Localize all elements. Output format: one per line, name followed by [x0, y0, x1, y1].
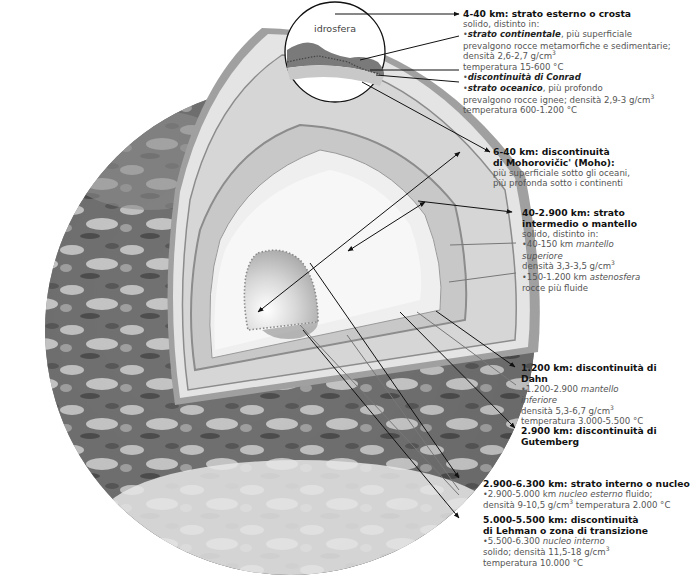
conrad-discontinuity: discontinuità di Conrad: [463, 72, 671, 83]
hydrosphere-label: idrosfera: [314, 23, 356, 34]
outer-core: 2.900-5.000 km nucleo esterno fluido;: [483, 489, 690, 500]
oceanic-layer: strato oceanico, più profondo: [463, 83, 671, 94]
core-label: 2.900-6.300 km: strato interno o nucleo …: [483, 478, 690, 511]
lower-mantle: 1.200-2.900 mantello: [521, 384, 657, 395]
gutenberg-label: 2.900 km: discontinuità di Gutemberg: [521, 425, 657, 447]
upper-mantle: 40-150 km mantello: [522, 239, 640, 250]
crust-label: 4-40 km: strato esterno o crosta solido,…: [463, 8, 671, 116]
hydrosphere-inset: [285, 2, 385, 102]
mantle-label: 40-2.900 km: strato intermedio o mantell…: [522, 207, 640, 293]
inner-core: 5.500-6.300 nucleo interno: [483, 536, 648, 547]
moho-label: 6-40 km: discontinuità di Mohorovičic' (…: [493, 146, 630, 189]
asthenosphere: 150-1.200 km astenosfera: [522, 272, 640, 283]
dahn-label: 1.200 km: discontinuità di Dahn 1.200-2.…: [521, 362, 657, 427]
lehman-label: 5.000-5.500 km: discontinuità di Lehman …: [483, 514, 648, 568]
crust-title: 4-40 km: strato esterno o crosta: [463, 8, 671, 19]
continental-layer: strato continentale, più superficiale: [463, 29, 671, 40]
